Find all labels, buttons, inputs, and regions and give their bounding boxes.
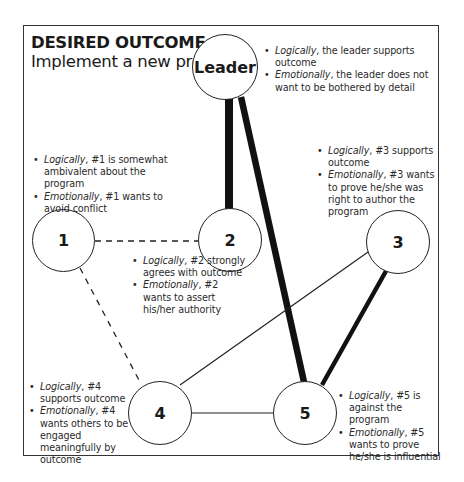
note-3-emotional: Emotionally, #3 wants to prove he/she wa…: [316, 169, 438, 218]
node-2-label: 2: [224, 231, 235, 250]
note-1-logical: Logically, #1 is somewhat ambivalent abo…: [32, 154, 182, 191]
note-5-logical: Logically, #5 is against the program: [337, 390, 441, 427]
node-3-label: 3: [392, 233, 403, 252]
note-2-logical: Logically, #2 strongly agrees with outco…: [131, 255, 249, 279]
note-5: Logically, #5 is against the program Emo…: [337, 390, 441, 463]
note-1: Logically, #1 is somewhat ambivalent abo…: [32, 154, 182, 215]
node-5-label: 5: [299, 404, 310, 423]
node-1-label: 1: [58, 231, 69, 250]
note-leader: Logically, the leader supports outcome E…: [263, 45, 438, 94]
note-4: Logically, #4 supports outcome Emotional…: [28, 381, 134, 466]
node-1: 1: [32, 209, 95, 272]
node-5: 5: [273, 381, 337, 445]
title-heading: DESIRED OUTCOME: [31, 33, 205, 52]
node-leader: Leader: [192, 34, 258, 100]
edge-3-5: [322, 271, 386, 385]
note-2: Logically, #2 strongly agrees with outco…: [131, 255, 249, 316]
note-4-logical: Logically, #4 supports outcome: [28, 381, 134, 405]
note-5-emotional: Emotionally, #5 wants to prove he/she is…: [337, 427, 441, 464]
note-3: Logically, #3 supports outcome Emotional…: [316, 145, 438, 218]
node-4: 4: [128, 381, 192, 445]
node-4-label: 4: [154, 404, 165, 423]
note-leader-logical: Logically, the leader supports outcome: [263, 45, 438, 69]
note-3-logical: Logically, #3 supports outcome: [316, 145, 438, 169]
note-leader-emotional: Emotionally, the leader does not want to…: [263, 69, 438, 93]
node-3: 3: [366, 210, 430, 274]
note-4-emotional: Emotionally, #4 wants others to be engag…: [28, 405, 134, 466]
note-1-emotional: Emotionally, #1 wants to avoid conflict: [32, 191, 182, 215]
node-leader-label: Leader: [194, 58, 256, 77]
note-2-emotional: Emotionally, #2 wants to assert his/her …: [131, 279, 249, 316]
